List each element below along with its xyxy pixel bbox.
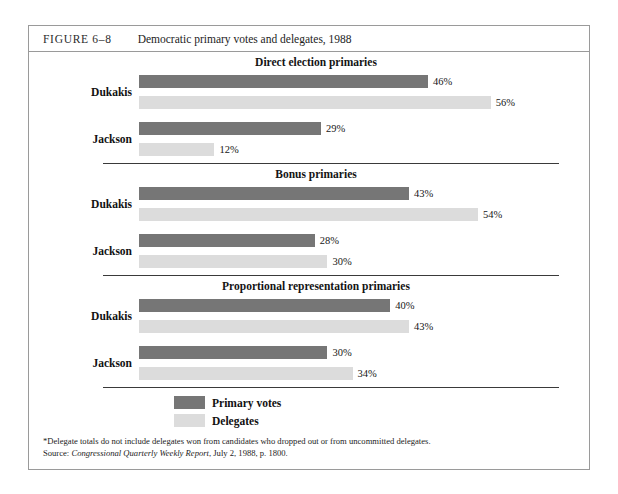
bar-delegates (139, 367, 353, 380)
group-spacer (29, 221, 589, 230)
bar-value-label: 30% (327, 256, 351, 267)
bar-delegates (139, 208, 478, 221)
bar-row: 12% (139, 143, 589, 156)
candidate-label: Jackson (29, 245, 139, 257)
bar-row: 29% (139, 122, 589, 135)
bar-value-label: 30% (327, 347, 351, 358)
panel-spacer (29, 380, 589, 387)
bar-delegates (139, 320, 409, 333)
bar-primary-votes (139, 299, 390, 312)
chart-body: Direct election primariesDukakis46%56%Ja… (29, 52, 589, 469)
source-publication: Congressional Quarterly Weekly Report (71, 448, 209, 458)
bar-primary-votes (139, 187, 409, 200)
bar-value-label: 54% (478, 209, 502, 220)
bar-primary-votes (139, 346, 327, 359)
chart-legend: Primary votesDelegates (174, 396, 589, 427)
panel-title: Proportional representation primaries (75, 276, 557, 295)
candidate-label: Dukakis (29, 198, 139, 210)
bar-row: 30% (139, 255, 589, 268)
bar-delegates (139, 143, 214, 156)
candidate-label: Dukakis (29, 86, 139, 98)
bar-value-label: 29% (321, 123, 345, 134)
bar-value-label: 46% (428, 76, 452, 87)
bar-delegates (139, 255, 327, 268)
bar-row: 54% (139, 208, 589, 221)
bar-value-label: 28% (315, 235, 339, 246)
candidate-group: Jackson30%34% (29, 346, 589, 380)
source-prefix: Source: (43, 448, 71, 458)
bars-wrapper: 40%43% (139, 299, 589, 333)
legend-item-label: Primary votes (212, 397, 281, 409)
candidate-label: Jackson (29, 357, 139, 369)
candidate-group: Jackson28%30% (29, 234, 589, 268)
source-line: Source: Congressional Quarterly Weekly R… (43, 447, 577, 459)
bar-row: 43% (139, 320, 589, 333)
legend-item: Delegates (174, 414, 589, 427)
legend-divider (103, 387, 559, 388)
candidate-group: Dukakis43%54% (29, 187, 589, 221)
bar-value-label: 43% (409, 188, 433, 199)
bar-row: 56% (139, 96, 589, 109)
panel-spacer (29, 156, 589, 163)
bar-primary-votes (139, 75, 428, 88)
figure-caption: Democratic primary votes and delegates, … (138, 33, 352, 45)
bar-row: 46% (139, 75, 589, 88)
panel-title: Direct election primaries (75, 52, 557, 71)
candidate-label: Dukakis (29, 310, 139, 322)
bars-wrapper: 46%56% (139, 75, 589, 109)
candidate-label: Jackson (29, 133, 139, 145)
bar-value-label: 12% (214, 144, 238, 155)
bar-delegates (139, 96, 491, 109)
bar-value-label: 40% (390, 300, 414, 311)
group-spacer (29, 333, 589, 342)
candidate-group: Jackson29%12% (29, 122, 589, 156)
bar-primary-votes (139, 234, 315, 247)
legend-item-label: Delegates (212, 415, 259, 427)
group-spacer (29, 109, 589, 118)
bars-wrapper: 28%30% (139, 234, 589, 268)
legend-swatch-primary-votes (174, 396, 205, 409)
bar-value-label: 34% (353, 368, 377, 379)
candidate-group: Dukakis40%43% (29, 299, 589, 333)
bar-value-label: 43% (409, 321, 433, 332)
bars-wrapper: 30%34% (139, 346, 589, 380)
source-suffix: , July 2, 1988, p. 1800. (209, 448, 288, 458)
figure-number-label: FIGURE 6–8 (43, 33, 112, 45)
bar-row: 34% (139, 367, 589, 380)
bars-wrapper: 43%54% (139, 187, 589, 221)
bar-row: 40% (139, 299, 589, 312)
figure-notes: *Delegate totals do not include delegate… (43, 435, 577, 459)
footnote-line: *Delegate totals do not include delegate… (43, 435, 577, 447)
candidate-group: Dukakis46%56% (29, 75, 589, 109)
chart-panel: Bonus primariesDukakis43%54%Jackson28%30… (29, 164, 589, 275)
panels-container: Direct election primariesDukakis46%56%Ja… (29, 52, 589, 388)
legend-item: Primary votes (174, 396, 589, 409)
bars-wrapper: 29%12% (139, 122, 589, 156)
bar-row: 30% (139, 346, 589, 359)
panel-title: Bonus primaries (75, 164, 557, 183)
chart-panel: Proportional representation primariesDuk… (29, 276, 589, 387)
figure-header: FIGURE 6–8 Democratic primary votes and … (29, 26, 589, 52)
panel-spacer (29, 268, 589, 275)
legend-swatch-delegates (174, 414, 205, 427)
bar-primary-votes (139, 122, 321, 135)
figure-frame: FIGURE 6–8 Democratic primary votes and … (28, 25, 590, 470)
bar-value-label: 56% (491, 97, 515, 108)
chart-panel: Direct election primariesDukakis46%56%Ja… (29, 52, 589, 163)
bar-row: 28% (139, 234, 589, 247)
bar-row: 43% (139, 187, 589, 200)
